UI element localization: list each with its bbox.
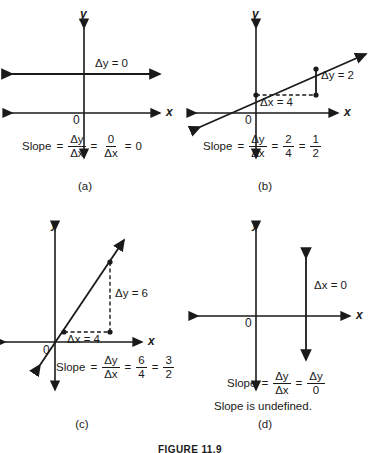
point-upper-right: [107, 259, 112, 264]
equals-sign-1: =: [90, 361, 97, 373]
fraction-denominator: Δx: [102, 368, 119, 381]
y-axis-label: y: [252, 8, 259, 20]
origin-label: 0: [73, 114, 80, 126]
point-upper-right: [313, 66, 318, 71]
fraction-numerator: 6: [136, 354, 146, 368]
panel-c-graphic: [0, 218, 190, 433]
fraction-denominator: 2: [310, 147, 320, 160]
fraction-denominator: Δx: [102, 147, 119, 160]
equals-sign-3: =: [152, 361, 159, 373]
fraction-numerator: 1: [310, 133, 320, 147]
sloped-line: [200, 54, 366, 127]
fraction-numerator: 3: [163, 354, 173, 368]
fraction-numerator: Δy: [273, 370, 290, 384]
point-lower-left: [253, 92, 258, 97]
delta-y-annotation: Δy = 6: [115, 288, 148, 300]
fraction-numerator: Δy: [249, 133, 266, 147]
equals-sign-1: =: [237, 140, 244, 152]
figure-caption: FIGURE 11.9: [0, 444, 380, 453]
equals-sign-3: =: [299, 140, 306, 152]
fraction-denominator: 0: [311, 384, 321, 397]
x-axis-label: x: [148, 335, 155, 347]
fraction-six-over-four: 6 4: [136, 354, 146, 380]
slope-undefined-note: Slope is undefined.: [214, 400, 312, 412]
fraction-denominator: 4: [136, 368, 146, 381]
equals-sign-2: =: [125, 361, 132, 373]
equals-sign-2: =: [91, 140, 98, 152]
fraction-numerator: Δy: [307, 370, 324, 384]
y-axis-label: y: [51, 218, 58, 230]
equals-sign-3: =: [125, 140, 132, 152]
origin-label: 0: [245, 317, 252, 329]
fraction-denominator: Δx: [68, 147, 85, 160]
delta-x-annotation: Δx = 4: [67, 334, 100, 346]
fraction-delta-y-over-delta-x: Δy Δx: [249, 133, 266, 159]
slope-equation-d: Slope = Δy Δx = Δy 0: [227, 370, 326, 396]
slope-equation-b: Slope = Δy Δx = 2 4 = 1 2: [203, 133, 322, 159]
point-lower-left: [61, 329, 66, 334]
panel-caption-c: (c): [62, 418, 102, 430]
panel-b: y x 0 Δy = 2 Δx = 4 Slope = Δy Δx = 2 4 …: [190, 0, 380, 215]
fraction-denominator: Δx: [249, 147, 266, 160]
slope-equation-a: Slope = Δy Δx = 0 Δx = 0: [22, 133, 142, 159]
fraction-one-over-two: 1 2: [310, 133, 320, 159]
point-corner: [107, 329, 112, 334]
fraction-denominator: 2: [163, 368, 173, 381]
panel-a: y x 0 Δy = 0 Slope = Δy Δx = 0 Δx = 0 (a…: [0, 0, 190, 215]
equals-sign-1: =: [261, 377, 268, 389]
panel-c: y x 0 Δy = 6 Δx = 4 Slope = Δy Δx = 6 4 …: [0, 218, 190, 433]
slope-figure: y x 0 Δy = 0 Slope = Δy Δx = 0 Δx = 0 (a…: [0, 0, 380, 453]
slope-equation-c: Slope = Δy Δx = 6 4 = 3 2: [56, 354, 175, 380]
fraction-numerator: Δy: [102, 354, 119, 368]
y-axis-label: y: [252, 218, 259, 230]
delta-y-annotation: Δy = 2: [321, 70, 354, 82]
origin-label: 0: [245, 114, 252, 126]
fraction-delta-y-over-delta-x: Δy Δx: [273, 370, 290, 396]
sloped-line: [40, 240, 124, 365]
fraction-three-over-two: 3 2: [163, 354, 173, 380]
delta-x-annotation: Δx = 4: [260, 97, 293, 109]
equals-sign-2: =: [272, 140, 279, 152]
fraction-numerator: Δy: [68, 133, 85, 147]
origin-label: 0: [43, 344, 50, 356]
panel-caption-b: (b): [245, 180, 285, 192]
delta-y-annotation: Δy = 0: [95, 58, 128, 70]
equals-sign-2: =: [296, 377, 303, 389]
fraction-delta-y-over-delta-x: Δy Δx: [102, 354, 119, 380]
fraction-delta-y-over-zero: Δy 0: [307, 370, 324, 396]
y-axis-label: y: [80, 8, 87, 20]
delta-x-annotation: Δx = 0: [314, 280, 347, 292]
slope-word: Slope: [22, 140, 51, 152]
equals-sign-1: =: [56, 140, 63, 152]
fraction-delta-y-over-delta-x: Δy Δx: [68, 133, 85, 159]
slope-result: 0: [135, 140, 141, 152]
x-axis-label: x: [344, 106, 351, 118]
slope-word: Slope: [56, 361, 85, 373]
slope-word: Slope: [227, 377, 256, 389]
fraction-two-over-four: 2 4: [283, 133, 293, 159]
fraction-denominator: Δx: [273, 384, 290, 397]
point-corner: [313, 92, 318, 97]
panel-caption-a: (a): [65, 180, 105, 192]
fraction-numerator: 0: [106, 133, 116, 147]
x-axis-label: x: [166, 106, 173, 118]
panel-d: y x 0 Δx = 0 Slope = Δy Δx = Δy 0 Slope …: [190, 218, 380, 433]
fraction-zero-over-delta-x: 0 Δx: [102, 133, 119, 159]
fraction-numerator: 2: [283, 133, 293, 147]
fraction-denominator: 4: [283, 147, 293, 160]
slope-word: Slope: [203, 140, 232, 152]
panel-caption-d: (d): [245, 418, 285, 430]
x-axis-label: x: [356, 309, 363, 321]
